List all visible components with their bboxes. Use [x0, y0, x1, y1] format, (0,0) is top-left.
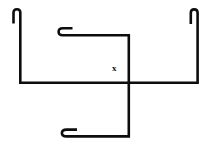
wire-figure-diagram: x	[0, 0, 211, 150]
point-label-x: x	[112, 64, 117, 73]
wire-stroke-right-branch	[129, 9, 198, 82]
wire-stroke-lower-middle-branch	[62, 83, 129, 137]
wire-stroke-upper-middle-branch	[59, 28, 129, 83]
wire-diagram-canvas	[0, 0, 211, 150]
